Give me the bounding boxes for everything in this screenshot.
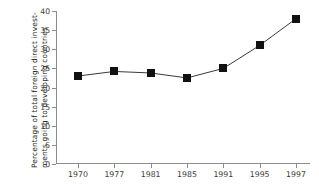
y-axis-title: Percentage of total foreign direct inves… [0, 0, 36, 172]
plot-area: 0510152025303540 19701977198119851991199… [56, 11, 310, 164]
data-point-1977 [110, 67, 118, 75]
data-point-1985 [183, 74, 191, 82]
y-axis-title-line-1: Percentage of total foreign direct inves… [30, 2, 40, 168]
series-line [56, 11, 310, 164]
y-tick-label-15: 15 [40, 102, 50, 111]
y-tick-label-10: 10 [40, 121, 50, 130]
line-chart: Percentage of total foreign direct inves… [0, 0, 319, 193]
x-tick-label-1970: 1970 [68, 170, 88, 179]
x-tick-1991 [223, 164, 224, 168]
y-tick-label-25: 25 [40, 64, 50, 73]
x-tick-1995 [260, 164, 261, 168]
x-tick-1985 [187, 164, 188, 168]
data-point-1981 [147, 69, 155, 77]
x-tick-1977 [114, 164, 115, 168]
y-tick-label-40: 40 [40, 7, 50, 16]
y-tick-label-5: 5 [45, 140, 50, 149]
data-point-1995 [256, 41, 264, 49]
x-tick-label-1997: 1997 [286, 170, 306, 179]
x-tick-label-1977: 1977 [104, 170, 124, 179]
x-tick-label-1981: 1981 [141, 170, 161, 179]
y-tick-label-0: 0 [45, 160, 50, 169]
y-tick-label-30: 30 [40, 45, 50, 54]
data-point-1997 [292, 15, 300, 23]
x-tick-label-1995: 1995 [250, 170, 270, 179]
x-tick-1970 [78, 164, 79, 168]
y-tick-label-20: 20 [40, 83, 50, 92]
x-tick-1981 [151, 164, 152, 168]
x-tick-label-1985: 1985 [177, 170, 197, 179]
x-tick-1997 [296, 164, 297, 168]
y-tick-0 [52, 164, 56, 165]
x-tick-label-1991: 1991 [213, 170, 233, 179]
data-point-1991 [219, 64, 227, 72]
data-point-1970 [74, 72, 82, 80]
y-tick-label-35: 35 [40, 26, 50, 35]
